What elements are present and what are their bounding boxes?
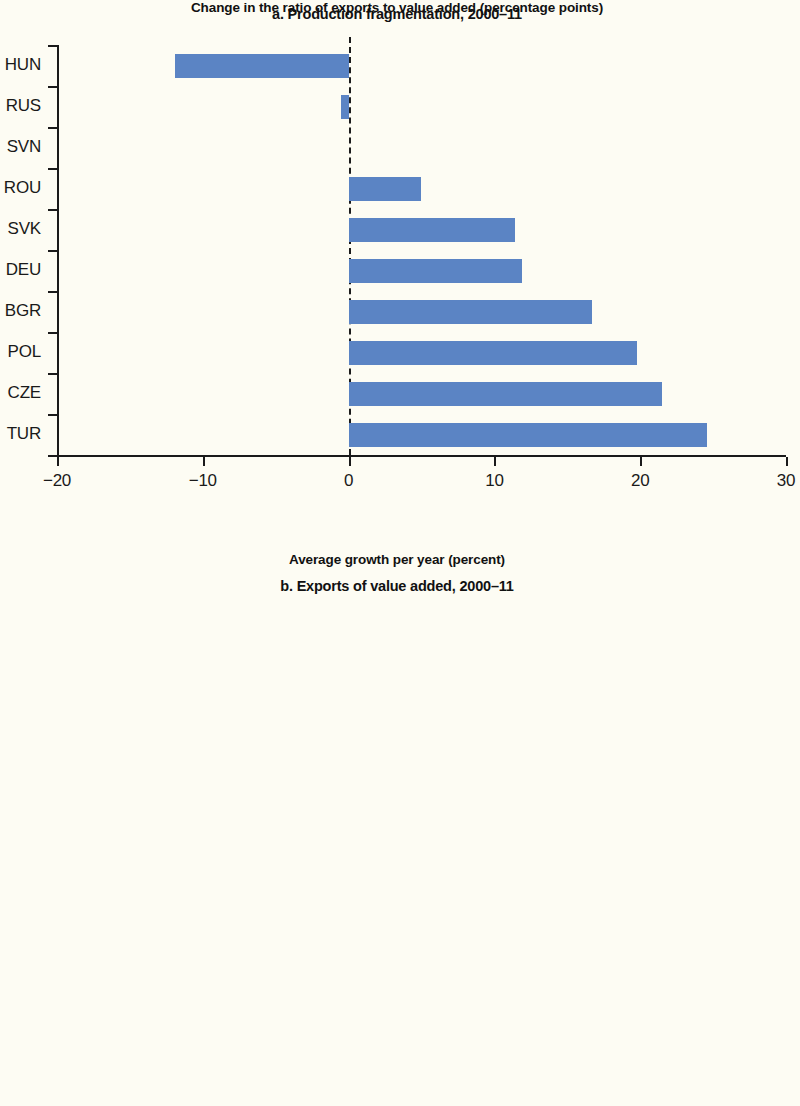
y-axis-tick bbox=[48, 209, 57, 211]
bar-hun bbox=[175, 54, 349, 78]
category-label-deu: DEU bbox=[0, 260, 41, 280]
x-axis-tick-label: 30 bbox=[756, 471, 800, 491]
x-axis-line bbox=[57, 455, 786, 457]
y-axis-tick bbox=[48, 414, 57, 416]
y-axis-tick bbox=[48, 127, 57, 129]
bar-svk bbox=[349, 218, 515, 242]
x-axis-tick bbox=[57, 457, 59, 466]
x-axis-tick-label: 20 bbox=[610, 471, 670, 491]
x-axis-tick-label: 0 bbox=[319, 471, 379, 491]
panel-exports-of-value-added: b. Exports of value added, 2000–11 Avera… bbox=[0, 552, 794, 1106]
y-axis-tick bbox=[48, 45, 57, 47]
category-label-svk: SVK bbox=[0, 219, 41, 239]
category-label-cze: CZE bbox=[0, 383, 41, 403]
category-label-rou: ROU bbox=[0, 178, 41, 198]
y-axis-tick bbox=[48, 291, 57, 293]
bar-cze bbox=[349, 382, 662, 406]
bar-bgr bbox=[349, 300, 592, 324]
y-axis-tick bbox=[48, 86, 57, 88]
y-axis-tick bbox=[48, 250, 57, 252]
y-axis-tick bbox=[48, 455, 57, 457]
x-axis-tick-label: 10 bbox=[464, 471, 524, 491]
bar-pol bbox=[349, 341, 638, 365]
bar-tur bbox=[349, 423, 708, 447]
x-axis-tick-label: −10 bbox=[173, 471, 233, 491]
bar-deu bbox=[349, 259, 523, 283]
x-axis-tick bbox=[494, 457, 496, 466]
category-label-tur: TUR bbox=[0, 424, 41, 444]
panel-b-axis-title: Average growth per year (percent) bbox=[0, 552, 794, 567]
x-axis-tick bbox=[786, 457, 788, 466]
category-label-bgr: BGR bbox=[0, 301, 41, 321]
bar-rus bbox=[341, 95, 348, 119]
x-axis-tick bbox=[203, 457, 205, 466]
bar-rou bbox=[349, 177, 422, 201]
category-label-pol: POL bbox=[0, 342, 41, 362]
category-label-hun: HUN bbox=[0, 55, 41, 75]
x-axis-tick bbox=[349, 457, 351, 466]
y-axis-tick bbox=[48, 168, 57, 170]
y-axis-line bbox=[57, 45, 59, 455]
category-label-rus: RUS bbox=[0, 96, 41, 116]
panel-b-title: b. Exports of value added, 2000–11 bbox=[0, 578, 794, 594]
y-axis-tick bbox=[48, 332, 57, 334]
y-axis-tick bbox=[48, 373, 57, 375]
panel-production-fragmentation: a. Production fragmentation, 2000–11 HUN… bbox=[0, 0, 794, 552]
x-axis-tick-label: −20 bbox=[27, 471, 87, 491]
panel-a-axis-title: Change in the ratio of exports to value … bbox=[0, 0, 794, 15]
category-label-svn: SVN bbox=[0, 137, 41, 157]
x-axis-tick bbox=[640, 457, 642, 466]
